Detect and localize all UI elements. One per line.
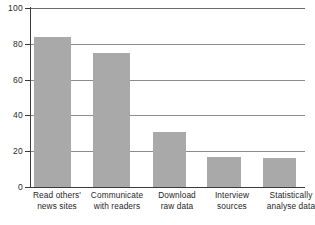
x-label-1: Communicate with readers [85, 190, 149, 212]
y-tick-label-100: 100 [8, 4, 23, 13]
bars-layer [31, 8, 305, 187]
y-tick-label-20: 20 [13, 147, 23, 156]
x-label-2: Download raw data [148, 190, 206, 212]
y-tick-label-40: 40 [13, 111, 23, 120]
x-label-4-line-1: Statistically [257, 190, 315, 201]
x-axis-labels: Read others' news sites Communicate with… [30, 190, 306, 224]
x-label-4: Statistically analyse data [257, 190, 315, 212]
bar-statistically-analyse-data[interactable] [263, 158, 296, 187]
x-label-1-line-2: with readers [85, 201, 149, 212]
x-label-4-line-2: analyse data [257, 201, 315, 212]
x-label-1-line-1: Communicate [85, 190, 149, 201]
bar-communicate-with-readers[interactable] [93, 53, 130, 187]
y-tick-label-80: 80 [13, 40, 23, 49]
bar-download-raw-data[interactable] [153, 132, 186, 187]
x-label-3-line-2: sources [204, 201, 260, 212]
bar-read-others-news-sites[interactable] [34, 37, 71, 187]
y-tick-label-60: 60 [13, 76, 23, 85]
x-label-2-line-2: raw data [148, 201, 206, 212]
y-tick-mark-0 [25, 187, 31, 188]
x-label-3: Interview sources [204, 190, 260, 212]
y-tick-label-0: 0 [18, 183, 23, 192]
chart-container: 100 80 60 40 20 0 Read others' news site… [0, 0, 315, 225]
x-label-0-line-1: Read others' [26, 190, 88, 201]
x-label-0: Read others' news sites [26, 190, 88, 212]
x-label-2-line-1: Download [148, 190, 206, 201]
x-label-3-line-1: Interview [204, 190, 260, 201]
bar-interview-sources[interactable] [207, 157, 241, 187]
x-label-0-line-2: news sites [26, 201, 88, 212]
x-axis-line [30, 187, 305, 188]
